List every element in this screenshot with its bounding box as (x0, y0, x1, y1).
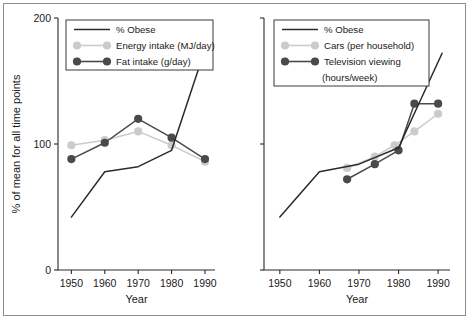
legend-marker-start (281, 57, 289, 65)
x-axis-title: Year (125, 293, 148, 305)
legend-left: % ObeseEnergy intake (MJ/day)Fat intake … (66, 20, 215, 70)
data-point (434, 100, 442, 108)
x-tick-label: 1950 (268, 277, 292, 289)
x-tick-label: 1990 (193, 277, 217, 289)
legend-label: Fat intake (g/day) (116, 56, 191, 67)
x-tick-label: 1960 (93, 277, 117, 289)
series-line (71, 119, 205, 159)
legend-marker-start (73, 57, 81, 65)
y-axis-title: % of mean for all time points (10, 74, 22, 213)
chart-figure: 010020019501960197019801990Year% of mean… (4, 4, 465, 315)
x-tick-label: 1990 (426, 277, 450, 289)
series-energy-intake-mj-day (67, 127, 209, 165)
data-point (134, 127, 142, 135)
data-point (434, 110, 442, 118)
series-line (347, 104, 438, 180)
legend-marker-end (311, 41, 319, 49)
y-tick-label: 0 (45, 264, 51, 276)
x-tick-label: 1980 (160, 277, 184, 289)
data-point (410, 127, 418, 135)
legend-marker-end (103, 57, 111, 65)
legend-label: Television viewing (324, 56, 401, 67)
x-tick-label: 1980 (387, 277, 411, 289)
series-cars-per-household (343, 110, 442, 172)
legend-marker-end (103, 41, 111, 49)
legend-marker-start (281, 41, 289, 49)
data-point (343, 175, 351, 183)
series-line (347, 114, 438, 168)
legend-marker-end (311, 57, 319, 65)
legend-label: Cars (per household) (324, 40, 414, 51)
data-point (67, 141, 75, 149)
x-tick-label: 1970 (347, 277, 371, 289)
x-tick-label: 1950 (60, 277, 84, 289)
y-tick-label: 100 (33, 138, 51, 150)
legend-entry[interactable]: (hours/week) (322, 72, 377, 83)
legend-label: % Obese (116, 24, 155, 35)
x-tick-label: 1970 (126, 277, 150, 289)
data-point (201, 155, 209, 163)
legend-label: Energy intake (MJ/day) (116, 40, 215, 51)
data-point (343, 164, 351, 172)
legend-right: % ObeseCars (per household)Television vi… (274, 20, 429, 86)
legend-marker-start (73, 41, 81, 49)
data-point (101, 139, 109, 147)
data-point (67, 155, 75, 163)
series-fat-intake-g-day (67, 115, 209, 164)
series-television-viewing-hours-week (343, 100, 442, 184)
y-tick-label: 200 (33, 12, 51, 24)
figure-frame: 010020019501960197019801990Year% of mean… (3, 3, 466, 316)
legend-label: % Obese (324, 24, 363, 35)
x-axis-title: Year (346, 293, 369, 305)
legend-label: (hours/week) (322, 72, 377, 83)
data-point (134, 115, 142, 123)
x-tick-label: 1960 (308, 277, 332, 289)
data-point (371, 160, 379, 168)
